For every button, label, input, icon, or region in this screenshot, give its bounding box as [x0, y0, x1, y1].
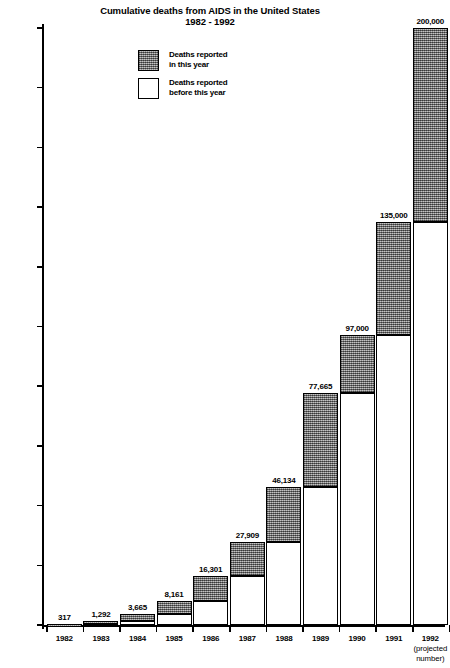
x-tick-1983 — [83, 625, 85, 632]
bar-value-label-1985: 8,161 — [165, 590, 184, 599]
x-tick-1989 — [302, 625, 304, 632]
x-axis-label-1983: 1983 — [83, 634, 120, 643]
bar-segment-current-1992 — [413, 28, 448, 222]
bar-segment-current-1984 — [120, 614, 155, 621]
x-axis-label-1992: 1992(projectednumber) — [412, 634, 449, 663]
bar-1985: 8,161 — [157, 28, 192, 625]
bar-value-label-1990: 97,000 — [345, 324, 368, 333]
bar-1984: 3,665 — [120, 28, 155, 625]
x-axis-label-1988: 1988 — [266, 634, 303, 643]
x-axis-label-year-1982: 1982 — [56, 634, 73, 643]
bar-1982: 317 — [47, 28, 82, 625]
x-axis-label-year-1989: 1989 — [312, 634, 329, 643]
bar-segment-current-1987 — [230, 542, 265, 577]
bar-segment-before-1991 — [376, 335, 411, 625]
y-tick-20000 — [37, 565, 43, 567]
bar-value-label-1991: 135,000 — [380, 211, 408, 220]
bar-value-label-1982: 317 — [58, 613, 71, 622]
bar-value-label-1992: 200,000 — [417, 17, 445, 26]
bar-segment-before-1987 — [230, 576, 265, 625]
x-tick-1984 — [119, 625, 121, 632]
y-tick-120000 — [37, 266, 43, 268]
x-axis-label-1987: 1987 — [229, 634, 266, 643]
bar-segment-before-1988 — [266, 542, 301, 625]
x-tick-1988 — [266, 625, 268, 632]
bar-1991: 135,000 — [376, 28, 411, 625]
x-axis-label-year-1985: 1985 — [166, 634, 183, 643]
x-axis-label-1984: 1984 — [119, 634, 156, 643]
x-axis-label-1991: 1991 — [375, 634, 412, 643]
bar-1988: 46,134 — [266, 28, 301, 625]
x-tick-1986 — [192, 625, 194, 632]
bar-segment-current-1990 — [340, 335, 375, 393]
x-axis-label-year-1991: 1991 — [385, 634, 402, 643]
bar-segment-current-1988 — [266, 487, 301, 541]
chart-title-line1: Cumulative deaths from AIDS in the Unite… — [100, 5, 320, 16]
y-tick-60000 — [37, 445, 43, 447]
bar-1983: 1,292 — [83, 28, 118, 625]
bar-1989: 77,665 — [303, 28, 338, 625]
bar-segment-before-1989 — [303, 487, 338, 625]
bar-segment-before-1992 — [413, 222, 448, 625]
x-tick-1985 — [156, 625, 158, 632]
y-tick-100000 — [37, 326, 43, 328]
x-axis-label-year-1988: 1988 — [275, 634, 292, 643]
bar-segment-before-1984 — [120, 621, 155, 625]
y-tick-140000 — [37, 206, 43, 208]
bar-segment-before-1990 — [340, 393, 375, 625]
x-axis-label-year-1984: 1984 — [129, 634, 146, 643]
y-tick-0 — [37, 624, 43, 626]
bar-1986: 16,301 — [193, 28, 228, 625]
x-axis-label-year-1987: 1987 — [239, 634, 256, 643]
bar-1990: 97,000 — [340, 28, 375, 625]
chart-title: Cumulative deaths from AIDS in the Unite… — [60, 5, 360, 27]
x-axis-label-1986: 1986 — [192, 634, 229, 643]
x-tick-1991 — [375, 625, 377, 632]
x-tick-1987 — [229, 625, 231, 632]
bar-value-label-1983: 1,292 — [91, 610, 110, 619]
y-tick-80000 — [37, 385, 43, 387]
bar-segment-current-1985 — [157, 601, 192, 614]
x-axis-label-1990: 1990 — [339, 634, 376, 643]
plot-area: 020,00040,00060,00080,000100,000120,0001… — [42, 28, 449, 625]
y-tick-180000 — [37, 87, 43, 89]
bar-1992: 200,000 — [413, 28, 448, 625]
bar-segment-current-1983 — [83, 621, 118, 624]
x-axis-sublabel-1992: (projectednumber) — [412, 644, 449, 663]
bar-1987: 27,909 — [230, 28, 265, 625]
bar-value-label-1987: 27,909 — [236, 531, 259, 540]
bar-segment-before-1986 — [193, 601, 228, 625]
bar-segment-current-1982 — [47, 624, 82, 627]
bar-segment-before-1985 — [157, 614, 192, 625]
bar-value-label-1986: 16,301 — [199, 565, 222, 574]
bar-segment-before-1983 — [83, 624, 118, 626]
x-axis-label-year-1986: 1986 — [202, 634, 219, 643]
y-tick-160000 — [37, 147, 43, 149]
x-axis-label-1989: 1989 — [302, 634, 339, 643]
y-tick-40000 — [37, 505, 43, 507]
x-tick-1990 — [339, 625, 341, 632]
bar-value-label-1989: 77,665 — [309, 382, 332, 391]
bar-segment-current-1991 — [376, 222, 411, 335]
bar-value-label-1988: 46,134 — [272, 476, 295, 485]
chart-subtitle: 1982 - 1992 — [60, 16, 360, 27]
x-axis-label-year-1990: 1990 — [349, 634, 366, 643]
bar-segment-current-1989 — [303, 393, 338, 487]
x-axis-label-1982: 1982 — [46, 634, 83, 643]
x-axis-label-1985: 1985 — [156, 634, 193, 643]
bar-value-label-1984: 3,665 — [128, 603, 147, 612]
y-tick-200000 — [37, 27, 43, 29]
bar-segment-current-1986 — [193, 576, 228, 600]
x-tick-1992 — [412, 625, 414, 632]
x-axis-label-year-1983: 1983 — [92, 634, 109, 643]
x-axis-label-year-1992: 1992 — [422, 634, 439, 643]
